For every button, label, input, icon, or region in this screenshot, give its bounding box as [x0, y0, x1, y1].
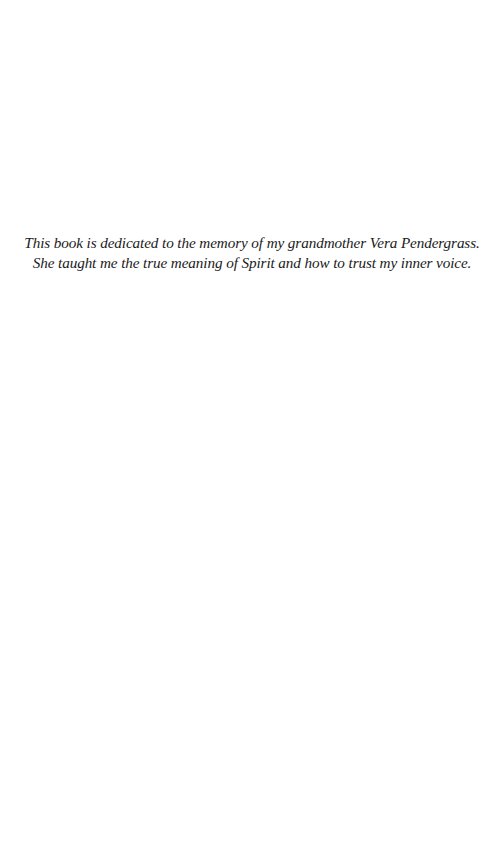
dedication-text: This book is dedicated to the memory of … [0, 233, 504, 273]
book-page: This book is dedicated to the memory of … [0, 0, 504, 864]
dedication-line-2: She taught me the true meaning of Spirit… [0, 253, 504, 273]
dedication-line-1: This book is dedicated to the memory of … [0, 233, 504, 253]
